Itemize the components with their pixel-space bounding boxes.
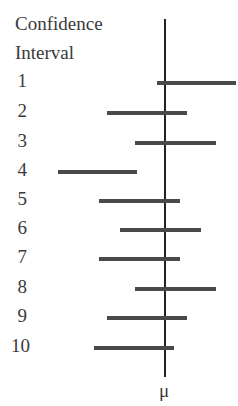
interval-bar — [135, 287, 216, 291]
interval-label: 1 — [0, 70, 27, 92]
interval-bar — [99, 257, 180, 261]
interval-bar — [120, 228, 201, 232]
interval-bar — [58, 170, 137, 174]
interval-label: 7 — [0, 246, 27, 268]
interval-label: 3 — [0, 130, 27, 152]
interval-bar — [99, 199, 180, 203]
interval-label: 4 — [0, 159, 27, 181]
interval-label: 2 — [0, 100, 27, 122]
interval-bar — [107, 111, 187, 115]
interval-label: 6 — [0, 217, 27, 239]
mu-axis-label: μ — [159, 380, 169, 402]
interval-label: 9 — [0, 305, 27, 327]
mu-reference-line — [164, 19, 166, 377]
chart-title-line1: Confidence — [15, 13, 103, 35]
interval-label: 8 — [0, 276, 27, 298]
interval-label: 10 — [0, 335, 30, 357]
interval-bar — [135, 141, 216, 145]
interval-bar — [107, 316, 187, 320]
chart-title-line2: Interval — [15, 42, 74, 64]
interval-bar — [157, 81, 236, 85]
interval-label: 5 — [0, 188, 27, 210]
interval-bar — [94, 346, 174, 350]
